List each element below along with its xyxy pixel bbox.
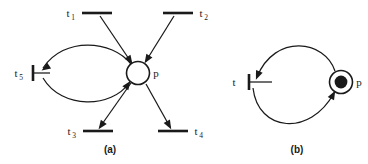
diagram-a: t 1 t 2 t 3 t 4 t bbox=[14, 7, 208, 155]
transition-t1-subscript: 1 bbox=[71, 13, 75, 22]
transition-t4-label: t bbox=[194, 125, 197, 137]
arc-t-to-p bbox=[253, 88, 338, 124]
transition-t5-label: t bbox=[14, 67, 17, 79]
diagram-b: t p (b) bbox=[232, 46, 362, 155]
transition-t3-label: t bbox=[67, 125, 70, 137]
arc-p-to-t4 bbox=[146, 84, 174, 131]
arc-t1-to-p bbox=[100, 16, 135, 66]
petri-net-figure: t 1 t 2 t 3 t 4 t bbox=[0, 0, 368, 164]
transition-t2-subscript: 2 bbox=[204, 13, 208, 22]
transition-t-label: t bbox=[232, 76, 235, 88]
transition-t1-label: t bbox=[66, 7, 69, 19]
arc-p-to-t3 bbox=[96, 83, 131, 131]
transition-t3-subscript: 3 bbox=[72, 131, 76, 140]
place-p-b-label: p bbox=[356, 76, 362, 88]
arc-p-to-t bbox=[253, 46, 335, 81]
token-dot bbox=[335, 76, 348, 89]
transition-t4-subscript: 4 bbox=[199, 131, 203, 140]
transition-t5-subscript: 5 bbox=[19, 73, 23, 82]
caption-b: (b) bbox=[291, 144, 304, 155]
place-p-a-label: p bbox=[153, 67, 159, 79]
arc-t2-to-p bbox=[142, 16, 174, 65]
place-p-a[interactable] bbox=[127, 62, 150, 85]
place-p-b[interactable] bbox=[330, 71, 353, 94]
transition-t[interactable] bbox=[249, 74, 272, 90]
transition-t2-label: t bbox=[199, 7, 202, 19]
caption-a: (a) bbox=[104, 144, 116, 155]
figure-canvas: t 1 t 2 t 3 t 4 t bbox=[0, 0, 368, 164]
arc-p-to-t5 bbox=[40, 45, 131, 73]
